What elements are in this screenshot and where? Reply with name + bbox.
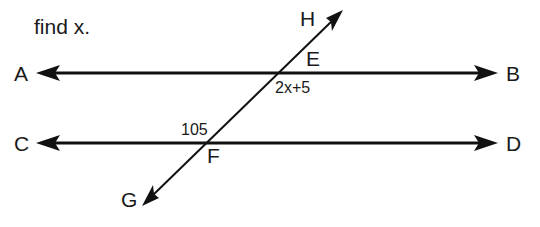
line-cd <box>36 135 498 151</box>
angle-label-f: 105 <box>181 121 208 138</box>
label-f: F <box>207 144 220 167</box>
label-a: A <box>14 62 28 85</box>
label-g: G <box>121 188 137 211</box>
label-c: C <box>14 132 29 155</box>
line-ab <box>36 65 498 81</box>
transversal-gh <box>142 10 343 206</box>
label-e: E <box>306 47 320 70</box>
label-h: H <box>300 7 315 30</box>
arrowhead-h-icon <box>326 10 343 31</box>
angle-label-e: 2x+5 <box>275 79 310 96</box>
label-d: D <box>506 132 521 155</box>
parallel-lines-diagram: find x. A B C D H E F G 2x+5 105 <box>0 0 540 227</box>
arrowhead-g-icon <box>142 185 159 206</box>
label-b: B <box>506 62 520 85</box>
prompt-text: find x. <box>34 15 90 38</box>
